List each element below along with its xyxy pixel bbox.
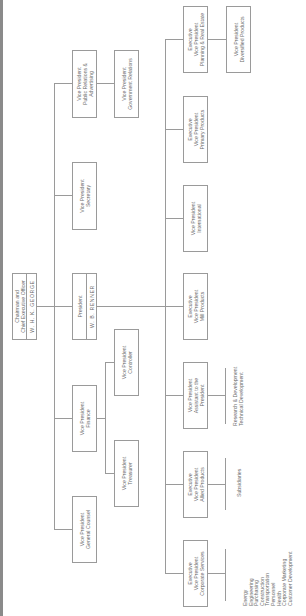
box-title: International: [196, 204, 202, 233]
corporate-services-notes: Energy Engineering Purchasing Constructi…: [243, 552, 293, 607]
diversified-products-box: Vice PresidentDiversified Products: [226, 6, 251, 73]
connector: [165, 39, 166, 574]
connector: [97, 306, 183, 307]
bracket: [225, 458, 226, 510]
connector: [208, 39, 226, 40]
box-title: Diversified Products: [239, 16, 245, 62]
connector: [97, 83, 114, 84]
connector: [165, 129, 183, 130]
connector: [54, 529, 72, 530]
box-title: Controller: [127, 351, 133, 374]
connector: [208, 573, 225, 574]
box-title: Planning & Real Estate: [199, 13, 205, 66]
connector: [165, 484, 183, 485]
bracket: [225, 549, 226, 601]
connector: [105, 362, 106, 474]
general-counsel-box: Vice PresidentGeneral Counsel: [72, 496, 97, 563]
bracket: [225, 368, 226, 424]
assistant-president-notes: Research & Development Technical Develop…: [233, 367, 244, 426]
box-title: Advertising: [88, 71, 94, 97]
connector: [97, 418, 105, 419]
connector: [165, 39, 183, 40]
officer-name: W. H. K. GEORGE: [29, 280, 35, 332]
note-item: Technical Development: [239, 367, 245, 426]
government-relations-box: Vice PresidentGovernment Relations: [114, 50, 139, 118]
connector: [54, 418, 72, 419]
allied-products-notes: Subsidiaries: [237, 469, 243, 497]
connector: [54, 83, 72, 84]
planning-real-estate-box: ExecutiveVice PresidentPlanning & Real E…: [183, 6, 208, 73]
box-title: Allied Products: [199, 467, 205, 502]
note-item: Subsidiaries: [237, 469, 243, 497]
connector: [54, 83, 55, 530]
box-title: Corporate Services: [199, 551, 205, 595]
corporate-services-box: ExecutiveVice PresidentCorporate Service…: [183, 540, 208, 607]
box-title: Secretary: [85, 185, 91, 207]
box-title: Primary Products: [199, 110, 205, 150]
box-title: Chief Executive Officer: [20, 274, 26, 339]
connector: [105, 362, 114, 363]
org-chart: Chairman andChief Executive Officer W. H…: [0, 0, 306, 616]
finance-box: Vice PresidentFinance: [72, 385, 97, 452]
allied-products-box: ExecutiveVice PresidentAllied Products: [183, 451, 208, 518]
assistant-president-box: Vice PresidentAssistant to thePresident: [183, 362, 208, 429]
connector: [54, 195, 72, 196]
box-title: President: [199, 385, 205, 407]
connector: [208, 395, 225, 396]
treasurer-box: Vice PresidentTreasurer: [114, 440, 139, 507]
officer-name: W. B. RENNER: [89, 285, 95, 328]
note-item: Customer Development: [288, 552, 294, 607]
connector: [165, 218, 183, 219]
president-box: President W. B. RENNER: [72, 273, 97, 340]
chairman-box: Chairman andChief Executive Officer W. H…: [12, 273, 37, 340]
secretary-box: Vice PresidentSecretary: [72, 162, 97, 230]
box-title: Treasurer: [127, 462, 133, 484]
box-title: General Counsel: [85, 510, 91, 549]
connector: [105, 473, 114, 474]
mill-products-box: ExecutiveVice PresidentMill Products: [183, 273, 208, 340]
connector: [165, 573, 183, 574]
box-title: Finance: [85, 409, 91, 427]
public-relations-box: Vice PresidentPublic Relations &Advertis…: [72, 50, 97, 118]
box-title: President: [77, 274, 83, 339]
connector: [208, 484, 225, 485]
controller-box: Vice PresidentController: [114, 329, 139, 396]
box-title: Government Relations: [127, 58, 133, 110]
box-title: Mill Products: [199, 292, 205, 322]
primary-products-box: ExecutiveVice PresidentPrimary Products: [183, 96, 208, 163]
connector: [165, 395, 183, 396]
international-box: Vice PresidentInternational: [183, 185, 208, 252]
